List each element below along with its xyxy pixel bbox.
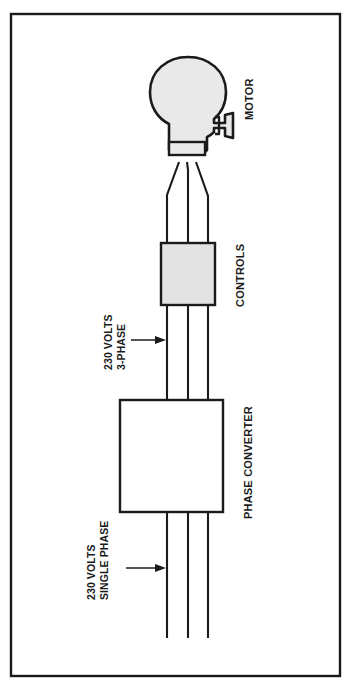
three-phase-label-line1: 230 VOLTS [102, 314, 114, 370]
three-phase-label-line2: 3-PHASE [115, 324, 127, 370]
phase-converter-diagram: MOTOR CONTROLS PHASE CONVERTER 230 VOLTS… [0, 0, 351, 690]
single-phase-label-line2: SINGLE PHASE [98, 521, 110, 600]
motor-assembly [150, 57, 233, 155]
three-phase-arrow-head [155, 336, 166, 344]
motor-body-shape [150, 57, 233, 153]
controls-label: CONTROLS [234, 244, 246, 307]
single-phase-annotation: 230 VOLTS SINGLE PHASE [85, 521, 166, 600]
diagram-figure: MOTOR CONTROLS PHASE CONVERTER 230 VOLTS… [0, 0, 351, 690]
single-phase-arrow-head [155, 564, 166, 572]
controls-box [161, 243, 215, 305]
motor-terminal-base [169, 142, 205, 155]
three-phase-annotation: 230 VOLTS 3-PHASE [102, 314, 166, 370]
motor-label: MOTOR [243, 78, 255, 120]
phase-converter-box [120, 400, 223, 512]
phase-converter-label: PHASE CONVERTER [242, 406, 254, 519]
single-phase-label-line1: 230 VOLTS [85, 544, 97, 600]
